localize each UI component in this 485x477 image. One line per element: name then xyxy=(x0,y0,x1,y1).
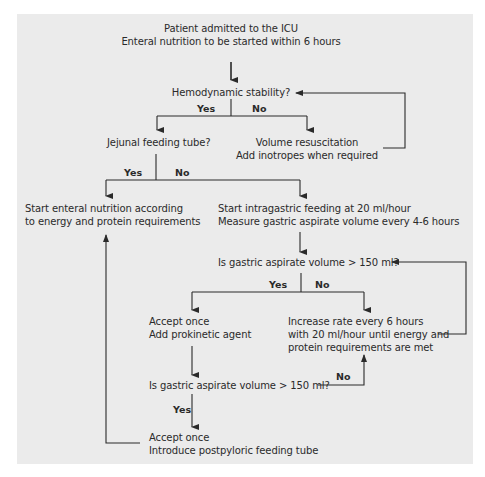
node-increase-rate-line1: Increase rate every 6 hours xyxy=(288,315,449,328)
node-accept-prokinetic-line1: Accept once xyxy=(149,315,251,328)
label-gastric1-no: No xyxy=(315,279,329,291)
node-increase-rate: Increase rate every 6 hours with 20 ml/h… xyxy=(288,315,449,354)
node-start-enteral: Start enteral nutrition according to ene… xyxy=(25,202,200,228)
node-volume-resuscitation-line1: Volume resuscitation xyxy=(236,136,378,149)
node-start-enteral-line1: Start enteral nutrition according xyxy=(25,202,200,215)
node-start: Patient admitted to the ICU Enteral nutr… xyxy=(121,22,340,48)
node-accept-prokinetic-line2: Add prokinetic agent xyxy=(149,328,251,341)
label-jejunal-no: No xyxy=(175,167,189,179)
node-accept-postpyloric-line2: Introduce postpyloric feeding tube xyxy=(149,444,318,457)
node-start-line1: Patient admitted to the ICU xyxy=(121,22,340,35)
node-start-intragastric-line2: Measure gastric aspirate volume every 4-… xyxy=(218,215,459,228)
node-accept-postpyloric-line1: Accept once xyxy=(149,431,318,444)
node-start-line2: Enteral nutrition to be started within 6… xyxy=(121,35,340,48)
label-jejunal-yes: Yes xyxy=(124,167,142,179)
label-gastric2-no: No xyxy=(336,371,350,383)
label-hemo-yes: Yes xyxy=(197,103,215,115)
node-increase-rate-line3: protein requirements are met xyxy=(288,341,449,354)
label-gastric1-yes: Yes xyxy=(269,279,287,291)
flowchart-connectors xyxy=(0,0,485,477)
node-gastric-question-1: Is gastric aspirate volume > 150 ml? xyxy=(218,256,399,269)
node-start-enteral-line2: to energy and protein requirements xyxy=(25,215,200,228)
node-accept-postpyloric: Accept once Introduce postpyloric feedin… xyxy=(149,431,318,457)
node-start-intragastric: Start intragastric feeding at 20 ml/hour… xyxy=(218,202,459,228)
node-volume-resuscitation-line2: Add inotropes when required xyxy=(236,149,378,162)
label-gastric2-yes: Yes xyxy=(173,404,191,416)
node-increase-rate-line2: with 20 ml/hour until energy and xyxy=(288,328,449,341)
node-start-intragastric-line1: Start intragastric feeding at 20 ml/hour xyxy=(218,202,459,215)
node-volume-resuscitation: Volume resuscitation Add inotropes when … xyxy=(236,136,378,162)
node-accept-prokinetic: Accept once Add prokinetic agent xyxy=(149,315,251,341)
node-hemodynamic-question: Hemodynamic stability? xyxy=(172,86,290,99)
node-jejunal-question: Jejunal feeding tube? xyxy=(107,136,210,149)
node-gastric-question-2: Is gastric aspirate volume > 150 ml? xyxy=(149,379,330,392)
label-hemo-no: No xyxy=(252,103,266,115)
